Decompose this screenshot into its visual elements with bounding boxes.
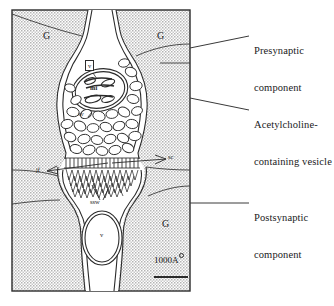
tag-subsynaptic-web: ssw bbox=[90, 198, 100, 206]
tag-vesicle-boxed: v bbox=[85, 60, 94, 71]
synapse-diagram-figure: G G G v mi sv sc jf ssw v 1000A Presynap… bbox=[0, 0, 334, 306]
region-label-g-top-left: G bbox=[43, 30, 50, 42]
tag-mitochondrion: mi bbox=[90, 84, 97, 92]
leader-presynaptic bbox=[190, 36, 249, 48]
callout-postsynaptic: Postsynaptic component bbox=[254, 187, 308, 286]
callout-acetylcholine-line1: Acetylcholine- bbox=[254, 119, 332, 131]
leader-acetylcholine bbox=[190, 98, 249, 110]
tag-synaptic-vesicle: sv bbox=[78, 110, 84, 118]
callout-leaders bbox=[190, 36, 249, 203]
callout-acetylcholine-vesicle: Acetylcholine- containing vesicle bbox=[254, 94, 332, 193]
region-label-g-bottom-right: G bbox=[162, 218, 169, 230]
callout-postsynaptic-line2: component bbox=[254, 249, 308, 261]
region-label-g-top-right: G bbox=[157, 30, 164, 42]
angstrom-ring-icon bbox=[179, 253, 184, 258]
tag-muscle-nucleus: v bbox=[100, 231, 103, 239]
callout-acetylcholine-line2: containing vesicle bbox=[254, 156, 332, 168]
scale-bar-label: 1000A bbox=[154, 255, 179, 266]
callout-presynaptic-line2: component bbox=[254, 82, 304, 94]
tag-synaptic-cleft: sc bbox=[168, 153, 173, 161]
callout-presynaptic-line1: Presynaptic bbox=[254, 45, 304, 57]
tag-junctional-folds: jf bbox=[36, 166, 40, 174]
callout-postsynaptic-line1: Postsynaptic bbox=[254, 212, 308, 224]
